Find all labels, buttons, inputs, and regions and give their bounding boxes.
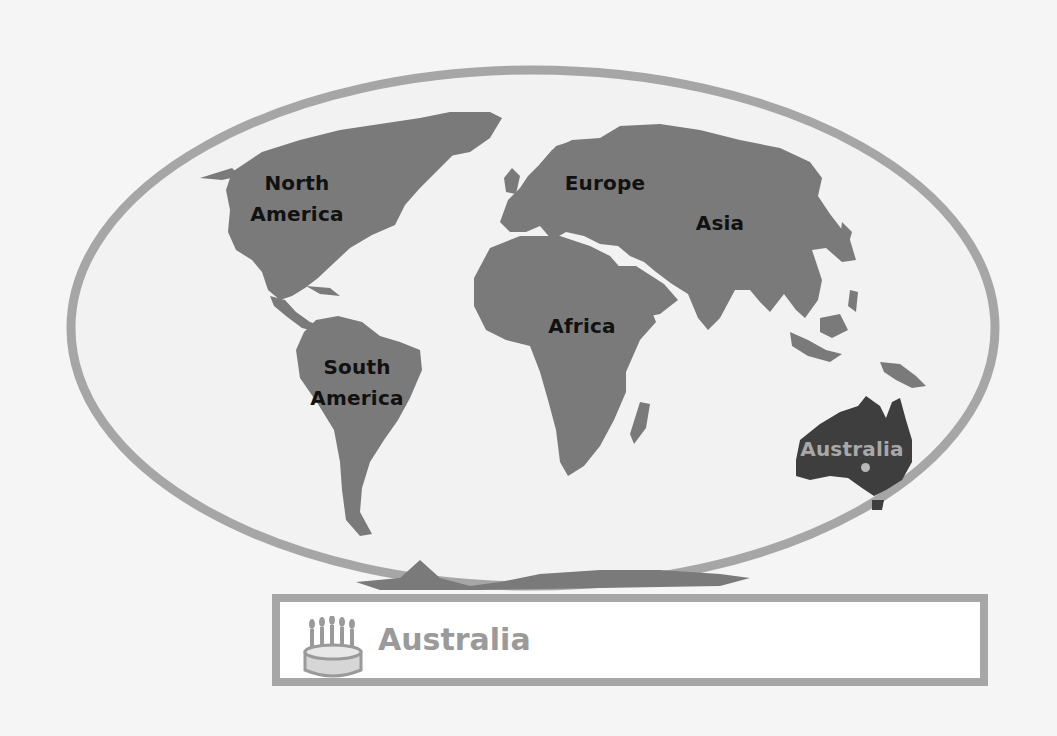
label-south-america: South America bbox=[302, 352, 412, 414]
caption-box: Australia bbox=[272, 594, 988, 686]
label-europe: Europe bbox=[555, 168, 655, 199]
label-north-america: North America bbox=[242, 168, 352, 230]
caption-text: Australia bbox=[378, 622, 531, 657]
label-australia: Australia bbox=[790, 434, 914, 465]
label-line: America bbox=[302, 383, 412, 414]
tasmania bbox=[872, 500, 884, 510]
label-line: South bbox=[302, 352, 412, 383]
label-line: North bbox=[242, 168, 352, 199]
birthday-cake-icon bbox=[302, 616, 364, 680]
label-africa: Africa bbox=[540, 311, 624, 342]
label-line: America bbox=[242, 199, 352, 230]
location-marker bbox=[861, 463, 870, 472]
label-asia: Asia bbox=[690, 208, 750, 239]
